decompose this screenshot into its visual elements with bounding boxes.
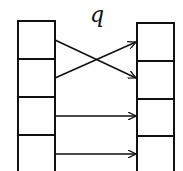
- permutation-diagram: [0, 0, 183, 171]
- left-column: [18, 21, 55, 171]
- right-column: [137, 23, 174, 171]
- mapping-arrows: [55, 40, 136, 154]
